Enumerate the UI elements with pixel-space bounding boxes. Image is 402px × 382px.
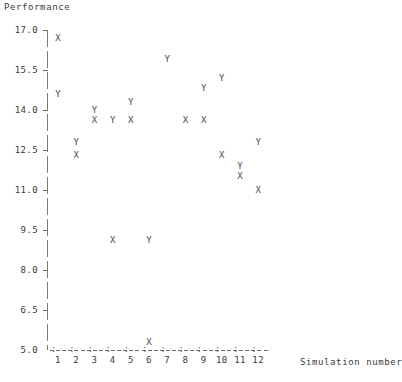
x-axis-dash [264, 350, 268, 351]
data-point-y: Y [72, 138, 81, 147]
x-tick-mark: : [215, 345, 220, 354]
x-tick-label: 12 [249, 355, 267, 365]
data-point-x: X [217, 151, 226, 160]
x-axis-title: Simulation number [300, 357, 402, 367]
x-tick-mark: : [251, 345, 256, 354]
y-tick-mark [43, 70, 48, 71]
x-axis-dash [129, 350, 133, 351]
data-point-x: X [54, 34, 63, 43]
x-tick-mark: : [51, 345, 56, 354]
x-axis-dash [81, 350, 85, 351]
x-axis-dash [221, 350, 225, 351]
y-axis-segment [47, 198, 48, 215]
x-tick-label: 7 [158, 355, 176, 365]
x-axis-dash [227, 350, 231, 351]
y-tick-label: 15.5 [0, 65, 38, 75]
x-tick-mark: : [197, 345, 202, 354]
data-point-y: Y [145, 236, 154, 245]
y-axis-segment [47, 345, 48, 350]
x-tick-label: 3 [85, 355, 103, 365]
data-point-x: X [199, 116, 208, 125]
x-axis-dash [257, 350, 261, 351]
x-axis-dash [172, 350, 176, 351]
data-point-x: X [181, 116, 190, 125]
data-point-x: X [236, 172, 245, 181]
x-axis-dash [135, 350, 139, 351]
data-point-x: X [126, 116, 135, 125]
y-axis-segment [47, 282, 48, 299]
x-axis-dash [111, 350, 115, 351]
data-point-x: X [108, 236, 117, 245]
x-tick-mark: : [87, 345, 92, 354]
x-tick-mark: : [178, 345, 183, 354]
x-tick-mark: : [69, 345, 74, 354]
y-axis-segment [47, 303, 48, 320]
y-axis-segment [47, 261, 48, 278]
y-tick-label: 11.0 [0, 185, 38, 195]
x-tick-mark: : [233, 345, 238, 354]
y-axis-title: Performance [4, 2, 70, 12]
y-axis-segment [47, 177, 48, 194]
y-tick-label: 14.0 [0, 105, 38, 115]
x-tick-label: 9 [195, 355, 213, 365]
y-axis-segment [47, 324, 48, 341]
y-axis-segment [47, 135, 48, 152]
y-axis-segment [47, 30, 48, 47]
x-axis-dash [203, 350, 207, 351]
x-axis-dash [62, 350, 66, 351]
data-point-x: X [145, 338, 154, 347]
y-axis-segment [47, 156, 48, 173]
x-axis-dash [99, 350, 103, 351]
data-point-y: Y [199, 84, 208, 93]
data-point-y: Y [254, 138, 263, 147]
data-point-y: Y [54, 90, 63, 99]
x-axis-dash [245, 350, 249, 351]
y-tick-label: 5.0 [0, 345, 38, 355]
y-tick-label: 9.5 [0, 225, 38, 235]
x-axis-dash [209, 350, 213, 351]
y-axis-segment [47, 219, 48, 236]
y-tick-label: 8.0 [0, 265, 38, 275]
y-axis-segment [47, 72, 48, 89]
data-point-x: X [90, 116, 99, 125]
y-tick-mark [43, 110, 48, 111]
data-point-y: Y [126, 98, 135, 107]
x-axis-dash [56, 350, 60, 351]
x-tick-label: 11 [231, 355, 249, 365]
data-point-y: Y [90, 106, 99, 115]
x-axis-dash [184, 350, 188, 351]
x-axis-dash [154, 350, 158, 351]
x-axis-dash [190, 350, 194, 351]
x-axis-dash [166, 350, 170, 351]
data-point-x: X [254, 186, 263, 195]
x-tick-label: 4 [104, 355, 122, 365]
x-tick-mark: : [124, 345, 129, 354]
x-tick-label: 2 [67, 355, 85, 365]
x-tick-label: 8 [176, 355, 194, 365]
y-axis-segment [47, 240, 48, 257]
y-axis-segment [47, 93, 48, 110]
x-axis-dash [117, 350, 121, 351]
x-tick-label: 10 [213, 355, 231, 365]
x-tick-label: 1 [49, 355, 67, 365]
data-point-y: Y [108, 116, 117, 125]
data-point-x: X [72, 151, 81, 160]
y-axis-segment [47, 51, 48, 68]
y-tick-label: 12.5 [0, 145, 38, 155]
y-axis-segment [47, 114, 48, 131]
y-tick-label: 17.0 [0, 25, 38, 35]
x-tick-label: 6 [140, 355, 158, 365]
x-tick-mark: : [160, 345, 165, 354]
x-tick-label: 5 [122, 355, 140, 365]
data-point-y: Y [217, 74, 226, 83]
x-axis-dash [74, 350, 78, 351]
data-point-y: Y [236, 162, 245, 171]
x-tick-mark: : [106, 345, 111, 354]
data-point-y: Y [163, 55, 172, 64]
y-tick-label: 6.5 [0, 305, 38, 315]
x-axis-dash [239, 350, 243, 351]
x-axis-dash [148, 350, 152, 351]
x-axis-dash [93, 350, 97, 351]
